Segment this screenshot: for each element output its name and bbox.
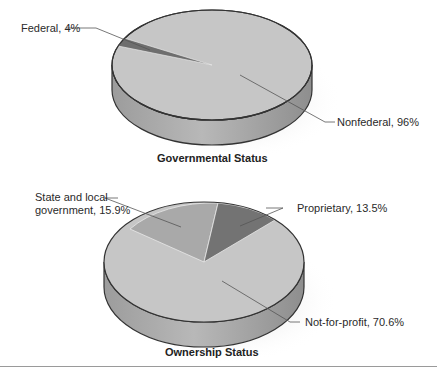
governmental-pie bbox=[66, 10, 342, 160]
label-state-local-line1: State and local bbox=[35, 191, 108, 204]
ownership-pie bbox=[104, 198, 338, 364]
label-not-for-profit: Not-for-profit, 70.6% bbox=[305, 316, 404, 329]
label-proprietary: Proprietary, 13.5% bbox=[297, 202, 387, 215]
bottom-divider bbox=[0, 366, 437, 367]
label-federal: Federal, 4% bbox=[21, 22, 80, 35]
label-nonfederal: Nonfederal, 96% bbox=[337, 116, 419, 129]
chart-title-ownership: Ownership Status bbox=[165, 346, 259, 358]
label-state-local-line2: government, 15.9% bbox=[35, 204, 130, 217]
chart-title-governmental: Governmental Status bbox=[157, 152, 268, 164]
